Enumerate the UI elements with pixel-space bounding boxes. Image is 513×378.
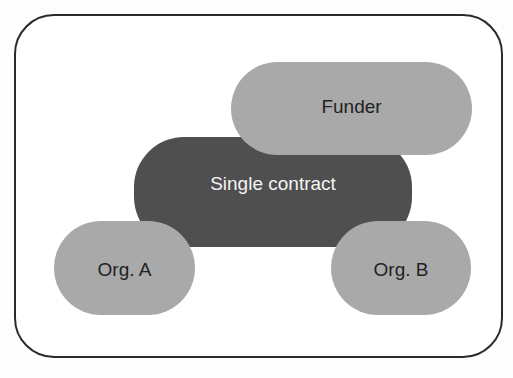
single-contract-label: Single contract	[210, 173, 336, 195]
funder-node: Funder	[231, 62, 472, 155]
org-a-node: Org. A	[54, 221, 195, 315]
org-b-node: Org. B	[331, 221, 471, 315]
funder-label: Funder	[321, 96, 381, 118]
org-b-label: Org. B	[374, 259, 429, 281]
org-a-label: Org. A	[98, 259, 152, 281]
